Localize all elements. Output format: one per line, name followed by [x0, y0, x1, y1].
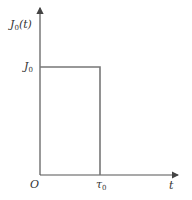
- y-axis-label-suffix: (t): [19, 18, 32, 31]
- y-axis-label: J0(t): [10, 19, 32, 32]
- pulse-end-label-sub: 0: [102, 184, 106, 192]
- x-axis-label: t: [169, 180, 173, 191]
- pulse-end-label: τ0: [96, 179, 107, 192]
- pulse-line: [40, 67, 100, 175]
- origin-label: O: [30, 179, 39, 190]
- level-label-sub: 0: [28, 66, 32, 74]
- level-label: J0: [24, 61, 33, 74]
